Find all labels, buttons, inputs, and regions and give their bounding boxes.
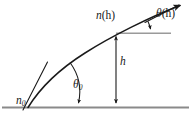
label-theta-zero-base: θ: [73, 78, 79, 90]
ray-trajectory-diagram: n(h) θ(h) h θ0 n0: [0, 0, 191, 118]
label-n-of-h: n(h): [96, 10, 115, 22]
label-h-text: h: [120, 55, 126, 67]
label-n-zero-base: n: [16, 94, 22, 106]
label-theta-zero-subscript: 0: [79, 83, 83, 92]
label-h: h: [120, 56, 126, 68]
label-theta-zero: θ0: [73, 79, 82, 91]
theta-h-arc: [148, 22, 151, 30]
label-theta-of-h-arg: (h): [162, 7, 175, 19]
label-n-zero-subscript: 0: [22, 99, 26, 108]
label-n-zero: n0: [16, 95, 26, 107]
label-theta-of-h: θ(h): [156, 8, 175, 20]
label-n-of-h-arg: (h): [102, 9, 115, 21]
